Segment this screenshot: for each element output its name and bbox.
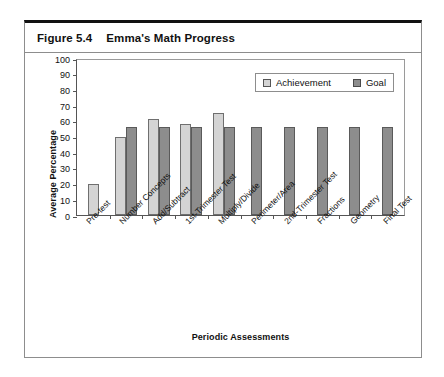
y-axis-tick-label: 90 [60,71,73,80]
bar-goal [284,127,295,215]
bar-group [77,60,110,215]
legend-swatch-achievement [263,79,271,87]
legend-item-goal: Goal [353,77,386,88]
y-axis-tick-label: 100 [55,56,73,65]
y-axis-tick-label: 50 [60,134,73,143]
y-axis-title: Average Percentage [48,114,58,234]
plot-area: 1009080706050403020100 Achievement Goal [76,59,405,216]
y-axis-tick-label: 80 [60,87,73,96]
figure-title: Emma's Math Progress [106,32,235,44]
bar-achievement [115,137,126,216]
y-axis-tick-label: 30 [60,165,73,174]
figure-number-label: Figure 5.4 [37,32,92,44]
y-axis-tick-label: 10 [60,197,73,206]
bar-achievement [180,124,191,215]
y-axis-tick-mark [73,217,77,218]
bar-goal [382,127,393,215]
bar-group [110,60,143,215]
figure-header: Figure 5.4 Emma's Math Progress [25,23,421,53]
x-axis-title: Periodic Assessments [76,332,405,342]
bar-goal [251,127,262,215]
legend-label-achievement: Achievement [276,77,331,88]
y-axis-tick-label: 70 [60,103,73,112]
y-axis-tick-label: 0 [65,213,73,222]
figure-card: Figure 5.4 Emma's Math Progress Average … [24,20,422,358]
x-axis-labels: Pre-testNumber ConceptsAdd/Subtract1st-T… [76,219,405,319]
y-axis-tick-label: 40 [60,150,73,159]
bar-goal [317,127,328,215]
bar-goal [349,127,360,215]
chart-legend: Achievement Goal [255,73,394,92]
y-axis-tick-label: 20 [60,181,73,190]
legend-label-goal: Goal [366,77,386,88]
legend-item-achievement: Achievement [263,77,331,88]
legend-swatch-goal [353,79,361,87]
y-axis-tick-label: 60 [60,118,73,127]
chart-body: Average Percentage 100908070605040302010… [25,53,421,360]
